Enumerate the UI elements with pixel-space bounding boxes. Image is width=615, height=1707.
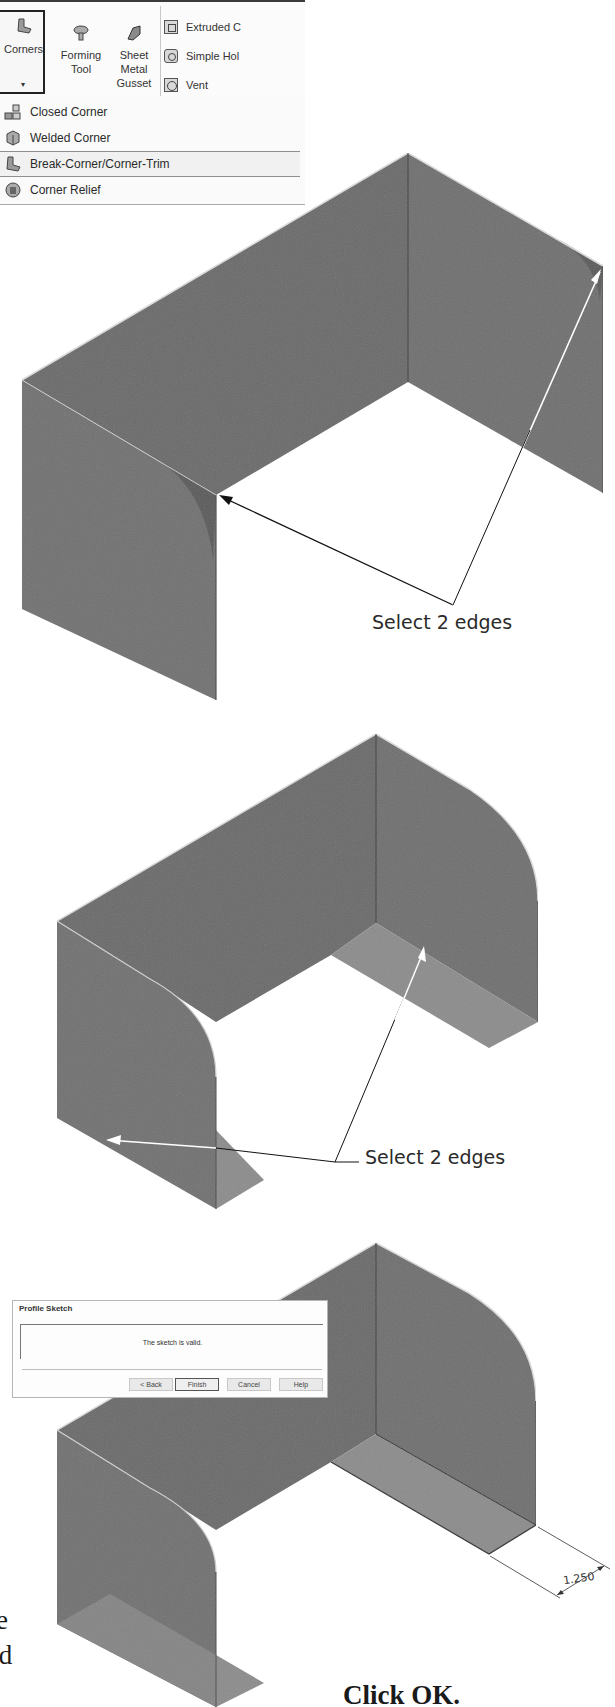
sheet-metal-ribbon: Corners ▾ Forming Tool Sheet Metal Gusse…	[0, 0, 305, 100]
extruded-cut-button[interactable]: Extruded C	[164, 16, 241, 38]
callout-select-edges-2: Select 2 edges	[365, 1146, 505, 1168]
welded-corner-icon	[4, 129, 22, 147]
sheet-metal-gusset-label: Sheet Metal Gusset	[112, 48, 156, 90]
corners-label: Corners	[0, 42, 47, 56]
finish-button[interactable]: Finish	[175, 1378, 219, 1391]
dialog-title: Profile Sketch	[19, 1304, 72, 1313]
corners-button[interactable]: Corners ▾	[0, 10, 45, 94]
menu-item-closed-corner[interactable]: Closed Corner	[0, 100, 300, 124]
dialog-message: The sketch is valid.	[21, 1325, 324, 1360]
model-1	[22, 153, 603, 700]
sheet-metal-gusset-button[interactable]: Sheet Metal Gusset	[112, 22, 156, 94]
sheet-metal-gusset-icon	[125, 24, 143, 42]
dialog-separator	[22, 1369, 322, 1370]
menu-item-welded-corner[interactable]: Welded Corner	[0, 126, 300, 150]
menu-item-corner-relief[interactable]: Corner Relief	[0, 178, 300, 202]
model-2	[57, 734, 538, 1209]
corners-dropdown-menu: Closed Corner Welded Corner Break-Corner…	[0, 98, 305, 205]
simple-hole-button[interactable]: Simple Hol	[164, 45, 239, 67]
vent-button[interactable]: Vent	[164, 74, 208, 96]
vent-icon	[164, 78, 178, 92]
profile-sketch-dialog: Profile Sketch The sketch is valid. < Ba…	[12, 1300, 328, 1398]
cancel-button[interactable]: Cancel	[227, 1378, 271, 1391]
callout-select-edges-1: Select 2 edges	[372, 611, 512, 633]
closed-corner-icon	[4, 103, 22, 121]
back-button[interactable]: < Back	[129, 1378, 173, 1391]
side-text-fragment-2: .d	[0, 1640, 12, 1671]
forming-tool-icon	[72, 24, 90, 42]
corners-icon	[15, 17, 33, 35]
corner-relief-icon	[4, 181, 22, 199]
simple-hole-icon	[164, 49, 178, 63]
click-ok-instruction: Click OK.	[343, 1680, 460, 1707]
side-text-fragment-1: e	[0, 1605, 8, 1636]
help-button[interactable]: Help	[279, 1378, 323, 1391]
break-corner-icon	[4, 155, 22, 173]
extruded-cut-icon	[164, 20, 178, 34]
ribbon-divider	[160, 6, 161, 96]
chevron-down-icon[interactable]: ▾	[0, 78, 45, 92]
forming-tool-button[interactable]: Forming Tool	[55, 22, 107, 94]
forming-tool-label: Forming Tool	[55, 48, 107, 76]
menu-item-break-corner[interactable]: Break-Corner/Corner-Trim	[0, 151, 300, 177]
sheet-metal-models	[0, 0, 615, 1707]
dialog-message-box: The sketch is valid.	[20, 1324, 323, 1359]
